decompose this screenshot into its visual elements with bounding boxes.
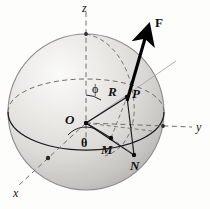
point-dot-N [132,153,136,157]
angle-label-phi: ϕ [92,83,98,95]
axis-label-z: z [82,2,87,14]
point-dot-M [109,136,113,140]
angle-label-theta: θ [81,137,87,149]
point-dot-O [84,121,88,125]
point-label-P: P [132,87,140,100]
point-dot-P [125,95,129,99]
axis-x-sphere-dot [46,156,50,160]
segment-label-R: R [108,85,117,98]
north-pole-dot [84,32,88,36]
axis-y-sphere-dot [161,124,165,128]
figure-canvas [0,0,210,209]
axis-label-x: x [13,187,18,199]
point-label-N: N [130,159,139,172]
point-label-M: M [101,143,113,156]
axis-label-y: y [196,121,201,133]
point-label-O: O [65,113,74,126]
spherical-coordinates-figure: z y x O P M N ϕ θ R F [0,0,210,209]
vector-label-F: F [155,16,163,29]
